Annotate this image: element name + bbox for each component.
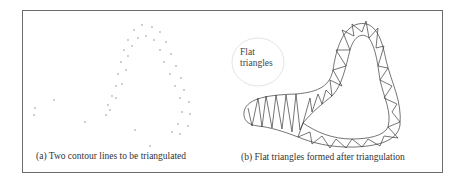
caption-panel-a: (a) Two contour lines to be triangulated [36,151,186,161]
contour-points [33,24,191,147]
caption-panel-b: (b) Flat triangles formed after triangul… [241,152,405,162]
annotation-line-1: Flat [240,47,273,58]
annotation-flat-triangles: Flat triangles [240,47,273,69]
annotation-line-2: triangles [240,58,273,69]
